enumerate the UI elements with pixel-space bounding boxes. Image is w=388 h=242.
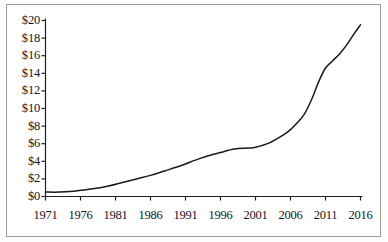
x-axis-tick-label: 2016 (339, 208, 383, 222)
x-axis-tick-labels: 1971197619811986199119962001200620112016 (0, 208, 388, 230)
x-axis-ticks (46, 197, 361, 201)
chart-figure: $20$18$16$14$12$10$8$6$4$2$0 19711976198… (0, 0, 388, 242)
data-series-line (46, 25, 361, 192)
axis-lines (46, 19, 363, 197)
plot-area (0, 0, 388, 242)
